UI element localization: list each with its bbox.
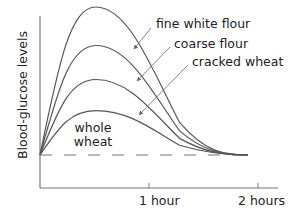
x-tick-label-1-hour: 1 hour xyxy=(139,195,180,208)
chart-canvas xyxy=(0,0,290,219)
label-whole-wheat-line2: wheat xyxy=(72,136,114,149)
x-tick-label-2-hours: 2 hours xyxy=(238,195,285,208)
arrow-fine-white-flour xyxy=(134,28,151,49)
arrow-coarse-flour xyxy=(137,47,170,81)
label-fine-white-flour: fine white flour xyxy=(156,18,250,31)
label-cracked-wheat: cracked wheat xyxy=(192,56,283,69)
label-coarse-flour: coarse flour xyxy=(174,38,248,51)
label-whole-wheat-line1: whole xyxy=(72,122,114,135)
y-axis-label: Blood-glucose levels xyxy=(15,31,30,159)
